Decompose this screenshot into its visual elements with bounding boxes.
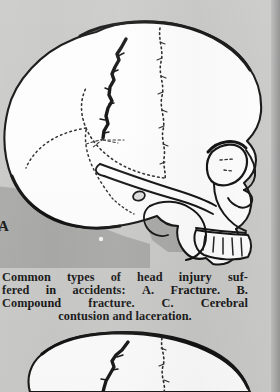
scan-highlight-dot (99, 237, 103, 241)
caption-word: Compound (2, 297, 61, 310)
figure-page: A Common types of head injury suf- fered… (0, 0, 280, 392)
figure-caption: Common types of head injury suf- fered i… (0, 268, 280, 330)
caption-word: A. (142, 284, 154, 297)
caption-word: Cerebral (201, 297, 248, 310)
caption-line-4: contusion and laceration. (0, 310, 248, 323)
figure-a-skull-illustration: A (0, 0, 280, 268)
figure-a-panel-label: A (0, 218, 9, 235)
figure-b-skull-illustration (0, 330, 280, 392)
